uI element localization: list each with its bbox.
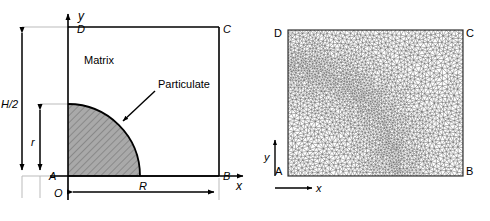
label-origin: O [54,187,63,199]
label-corner-d: D [77,23,85,35]
label-mesh-axis-x: x [315,182,322,194]
label-matrix: Matrix [84,54,114,66]
label-corner-a: A [48,170,56,182]
mesh-svg: y x D C A B [250,0,490,221]
particulate-leader-line [123,91,155,121]
schematic-svg: D C A B O y x Matrix Particulate H/2 r R [0,0,250,221]
label-dim-r: r [31,136,36,148]
schematic-panel: D C A B O y x Matrix Particulate H/2 r R [0,0,250,221]
label-mesh-corner-a: A [275,165,283,177]
figure-root: D C A B O y x Matrix Particulate H/2 r R [0,0,490,221]
label-dim-R: R [139,180,147,192]
mesh-panel: y x D C A B [250,0,490,221]
label-corner-b: B [223,170,230,182]
label-mesh-corner-c: C [466,27,474,39]
label-mesh-axis-y: y [263,151,271,163]
label-mesh-corner-b: B [466,165,473,177]
label-particulate: Particulate [158,78,210,90]
label-mesh-corner-d: D [274,27,282,39]
label-axis-x: x [235,179,243,193]
label-axis-y: y [77,9,85,23]
label-dim-h-half: H/2 [1,98,18,110]
label-corner-c: C [223,23,231,35]
